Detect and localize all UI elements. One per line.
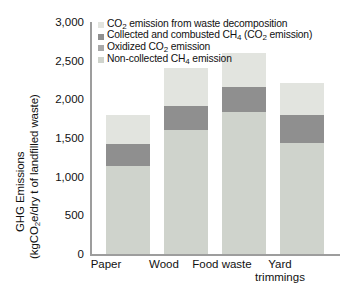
y-axis-title-line2-subscript: 2: [33, 222, 42, 226]
bar-yard-trimmings[interactable]: [280, 83, 324, 254]
y-tick-label-2000: 2,000: [32, 93, 84, 105]
legend-swatch-co2-decomposition: [98, 22, 104, 28]
legend-swatch-non-collected-ch4: [98, 57, 104, 63]
bar-segment-collected-combusted-ch4: [280, 115, 324, 143]
legend-label-non-collected-ch4: Non-collected CH4 emission: [107, 53, 232, 68]
bar-food-waste[interactable]: [222, 53, 266, 254]
bar-segment-collected-combusted-ch4: [222, 87, 266, 112]
y-axis-title-line2-suffix: e/dry t of landfilled waste): [28, 94, 40, 222]
legend: CO2 emission from waste decomposition Co…: [98, 19, 312, 66]
bar-wood[interactable]: [164, 68, 208, 254]
bar-segment-collected-combusted-ch4: [106, 144, 150, 166]
chart-root: GHG Emissions (kgCO2e/dry t of landfille…: [0, 0, 344, 300]
bar-segment-non-collected-ch4: [164, 130, 208, 254]
y-axis-title-line1: GHG Emissions: [14, 152, 26, 233]
y-tick-label-500: 500: [32, 209, 84, 221]
legend-swatch-collected-combusted-ch4: [98, 34, 104, 40]
y-tick-label-2500: 2,500: [32, 55, 84, 67]
legend-item-non-collected-ch4[interactable]: Non-collected CH4 emission: [98, 54, 312, 66]
bar-segment-collected-combusted-ch4: [164, 106, 208, 131]
legend-swatch-oxidized-co2: [98, 45, 104, 51]
bar-paper[interactable]: [106, 115, 150, 254]
y-tick-label-1500: 1,500: [32, 132, 84, 144]
bar-segment-co2-decomposition: [106, 115, 150, 144]
bar-segment-non-collected-ch4: [280, 143, 324, 254]
bar-segment-non-collected-ch4: [222, 112, 266, 254]
x-axis-line: [90, 254, 340, 256]
bar-segment-non-collected-ch4: [106, 166, 150, 254]
bar-segment-co2-decomposition: [280, 83, 324, 115]
y-tick-label-3000: 3,000: [32, 16, 84, 28]
y-tick-label-1000: 1,000: [32, 171, 84, 183]
bar-segment-co2-decomposition: [164, 68, 208, 105]
x-tick-label-yard-trimmings: Yardtrimmings: [244, 258, 316, 284]
